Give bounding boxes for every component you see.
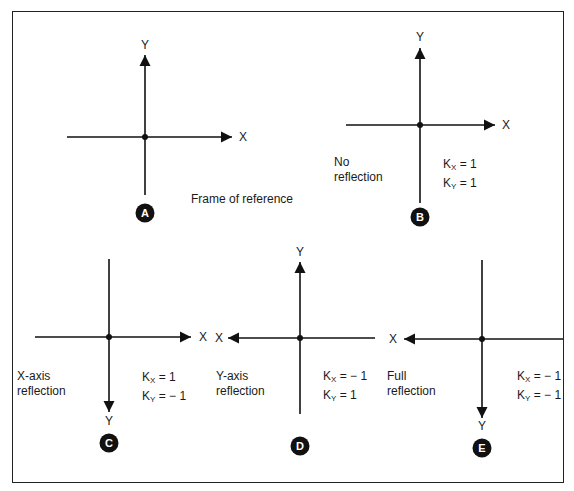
- panel-badge-b: B: [411, 208, 430, 227]
- k-values: KX = 1KY = 1: [443, 157, 477, 194]
- caption-line: Y-axis: [216, 369, 265, 384]
- caption-line: reflection: [17, 384, 66, 399]
- x-axis-label: X: [389, 333, 397, 345]
- x-axis-label: X: [502, 119, 510, 131]
- kx-value: KX = 1: [443, 157, 477, 176]
- ky-value: KY = 1: [323, 388, 367, 407]
- panel-badge-e: E: [473, 439, 492, 458]
- k-values: KX = − 1KY = 1: [323, 369, 367, 406]
- caption-line: reflection: [334, 170, 383, 185]
- y-axis-label: Y: [296, 246, 304, 258]
- kx-value: KX = − 1: [517, 369, 561, 388]
- panel-badge-c: C: [100, 434, 119, 453]
- caption-line: No: [334, 155, 383, 170]
- panel-caption: Noreflection: [334, 155, 383, 185]
- caption-line: X-axis: [17, 369, 66, 384]
- panel-badge-a: A: [136, 204, 155, 223]
- x-axis-label: X: [215, 332, 223, 344]
- y-axis-label: Y: [478, 420, 486, 432]
- x-axis-label: X: [239, 131, 247, 143]
- ky-value: KY = − 1: [517, 388, 561, 407]
- ky-value: KY = 1: [443, 176, 477, 195]
- caption-line: reflection: [387, 384, 436, 399]
- panel-caption: Frame of reference: [191, 192, 293, 207]
- x-axis-label: X: [199, 331, 207, 343]
- ky-value: KY = − 1: [142, 389, 186, 408]
- y-axis-label: Y: [105, 415, 113, 427]
- y-axis-label: Y: [141, 39, 149, 51]
- panel-caption: Y-axisreflection: [216, 369, 265, 399]
- caption-line: Frame of reference: [191, 192, 293, 207]
- k-values: KX = 1KY = − 1: [142, 370, 186, 407]
- panel-badge-d: D: [291, 437, 310, 456]
- caption-line: reflection: [216, 384, 265, 399]
- kx-value: KX = 1: [142, 370, 186, 389]
- k-values: KX = − 1KY = − 1: [517, 369, 561, 406]
- panel-a-axes: [67, 55, 232, 195]
- kx-value: KX = − 1: [323, 369, 367, 388]
- y-axis-label: Y: [416, 31, 424, 43]
- caption-line: Full: [387, 369, 436, 384]
- axes-drawing: [0, 0, 574, 491]
- panel-caption: X-axisreflection: [17, 369, 66, 399]
- panel-caption: Fullreflection: [387, 369, 436, 399]
